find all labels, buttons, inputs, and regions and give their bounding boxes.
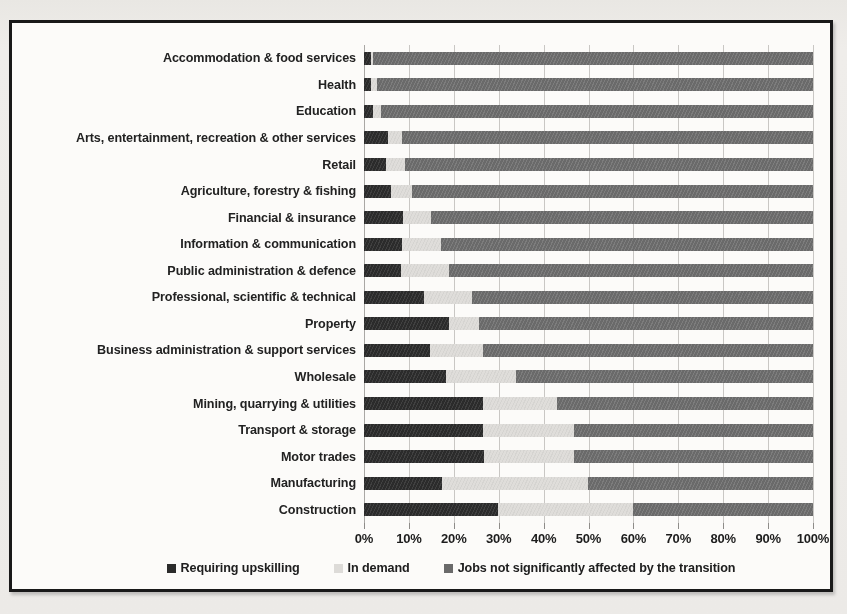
legend-item[interactable]: Requiring upskilling bbox=[167, 561, 300, 575]
bar-segment-0 bbox=[364, 185, 391, 198]
x-tick-20 bbox=[454, 523, 455, 529]
bar-segment-1 bbox=[401, 264, 449, 277]
bar-segment-0 bbox=[364, 78, 371, 91]
bar-segment-2 bbox=[479, 317, 813, 330]
x-axis-tick-labels: 0%10%20%30%40%50%60%70%80%90%100% bbox=[364, 531, 813, 551]
bar-segment-2 bbox=[557, 397, 813, 410]
bar-segment-2 bbox=[405, 158, 813, 171]
category-label: Agriculture, forestry & fishing bbox=[181, 185, 356, 198]
chart-legend: Requiring upskillingIn demandJobs not si… bbox=[12, 561, 830, 575]
bar-row bbox=[364, 78, 813, 91]
bar-segment-2 bbox=[402, 131, 813, 144]
bar-segment-1 bbox=[442, 477, 588, 490]
bar-segment-0 bbox=[364, 264, 401, 277]
x-axis-label: 10% bbox=[396, 531, 421, 546]
x-tick-60 bbox=[633, 523, 634, 529]
x-axis-label: 90% bbox=[755, 531, 780, 546]
category-label: Accommodation & food services bbox=[163, 52, 356, 65]
bar-segment-0 bbox=[364, 211, 403, 224]
bar-row bbox=[364, 211, 813, 224]
category-label: Property bbox=[305, 318, 356, 331]
bar-segment-2 bbox=[441, 238, 813, 251]
category-label: Financial & insurance bbox=[228, 212, 356, 225]
bar-segment-0 bbox=[364, 477, 442, 490]
bar-segment-2 bbox=[412, 185, 813, 198]
bar-segment-1 bbox=[483, 424, 574, 437]
bar-segment-1 bbox=[386, 158, 404, 171]
bar-segment-0 bbox=[364, 344, 430, 357]
x-axis-label: 60% bbox=[621, 531, 646, 546]
legend-item[interactable]: Jobs not significantly affected by the t… bbox=[444, 561, 736, 575]
bar-segment-1 bbox=[373, 105, 382, 118]
bar-segment-2 bbox=[472, 291, 813, 304]
category-label: Construction bbox=[279, 504, 356, 517]
bar-segment-2 bbox=[377, 78, 813, 91]
bar-segment-2 bbox=[574, 424, 813, 437]
category-label: Public administration & defence bbox=[167, 265, 356, 278]
x-tick-40 bbox=[544, 523, 545, 529]
bar-segment-1 bbox=[430, 344, 483, 357]
x-tick-70 bbox=[678, 523, 679, 529]
category-label: Retail bbox=[322, 159, 356, 172]
x-tick-50 bbox=[589, 523, 590, 529]
bar-row bbox=[364, 291, 813, 304]
bar-segment-2 bbox=[373, 52, 813, 65]
legend-label: Requiring upskilling bbox=[181, 561, 300, 575]
x-axis-label: 30% bbox=[486, 531, 511, 546]
x-axis-label: 50% bbox=[576, 531, 601, 546]
bar-segment-1 bbox=[446, 370, 516, 383]
x-axis-label: 0% bbox=[355, 531, 373, 546]
category-label: Health bbox=[318, 79, 356, 92]
bar-row bbox=[364, 185, 813, 198]
bar-segment-0 bbox=[364, 131, 388, 144]
legend-label: Jobs not significantly affected by the t… bbox=[458, 561, 736, 575]
bar-segment-2 bbox=[574, 450, 813, 463]
bar-segment-0 bbox=[364, 450, 484, 463]
bar-segment-1 bbox=[391, 185, 412, 198]
bar-segment-1 bbox=[483, 397, 557, 410]
gridline-100 bbox=[813, 45, 814, 523]
bar-row bbox=[364, 424, 813, 437]
x-tick-90 bbox=[768, 523, 769, 529]
bar-segment-0 bbox=[364, 291, 424, 304]
bar-segment-0 bbox=[364, 424, 483, 437]
bar-segment-2 bbox=[431, 211, 813, 224]
bar-segment-0 bbox=[364, 52, 371, 65]
bar-segment-0 bbox=[364, 503, 498, 516]
legend-item[interactable]: In demand bbox=[334, 561, 410, 575]
bar-segment-2 bbox=[449, 264, 813, 277]
category-label: Professional, scientific & technical bbox=[152, 291, 356, 304]
chart-frame: Accommodation & food servicesHealthEduca… bbox=[9, 20, 833, 592]
bar-row bbox=[364, 158, 813, 171]
bar-segment-1 bbox=[498, 503, 634, 516]
bar-segment-2 bbox=[516, 370, 813, 383]
x-axis-label: 70% bbox=[666, 531, 691, 546]
bar-row bbox=[364, 52, 813, 65]
bar-row bbox=[364, 238, 813, 251]
x-axis-label: 20% bbox=[441, 531, 466, 546]
bar-segment-2 bbox=[633, 503, 813, 516]
bar-row bbox=[364, 450, 813, 463]
plot-area bbox=[364, 45, 813, 523]
bar-segment-0 bbox=[364, 397, 483, 410]
category-axis: Accommodation & food servicesHealthEduca… bbox=[12, 45, 356, 523]
category-label: Mining, quarrying & utilities bbox=[193, 398, 356, 411]
category-label: Manufacturing bbox=[271, 477, 356, 490]
x-axis-label: 100% bbox=[797, 531, 829, 546]
category-label: Motor trades bbox=[281, 451, 356, 464]
bar-segment-0 bbox=[364, 158, 386, 171]
x-tick-30 bbox=[499, 523, 500, 529]
legend-swatch-light bbox=[334, 564, 343, 573]
bar-segment-2 bbox=[483, 344, 813, 357]
bar-segment-0 bbox=[364, 317, 449, 330]
bar-segment-1 bbox=[449, 317, 479, 330]
bar-row bbox=[364, 503, 813, 516]
bar-segment-1 bbox=[484, 450, 574, 463]
category-label: Information & communication bbox=[180, 238, 356, 251]
scanned-page-background: Accommodation & food servicesHealthEduca… bbox=[0, 0, 847, 614]
category-label: Transport & storage bbox=[238, 424, 356, 437]
chart-canvas: Accommodation & food servicesHealthEduca… bbox=[12, 23, 830, 589]
bar-segment-1 bbox=[403, 211, 431, 224]
bar-segment-1 bbox=[402, 238, 442, 251]
x-axis-label: 40% bbox=[531, 531, 556, 546]
